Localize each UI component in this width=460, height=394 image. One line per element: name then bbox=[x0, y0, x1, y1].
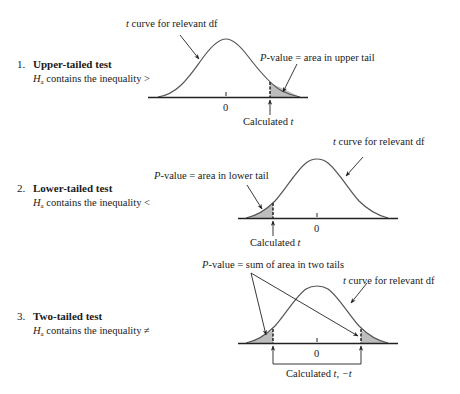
case-3-pvalue-label: P-value = sum of area in two tails bbox=[202, 259, 344, 270]
case-number: 2. bbox=[17, 182, 33, 194]
case-2-heading: 2.Lower-tailed test bbox=[17, 182, 112, 194]
case-2-curve-label: t curve for relevant df bbox=[333, 136, 425, 147]
case-3-hypothesis: Ha contains the inequality ≠ bbox=[33, 325, 150, 338]
case-3-zero-label: 0 bbox=[314, 348, 319, 359]
pvalue-pointer-arrow bbox=[247, 185, 262, 209]
case-2-zero-label: 0 bbox=[314, 223, 319, 234]
case-1-zero-label: 0 bbox=[223, 102, 228, 113]
case-1-calculated-label: Calculated t bbox=[243, 116, 293, 127]
curve-pointer-arrow bbox=[180, 35, 199, 59]
pvalue-arrow-lower bbox=[251, 273, 266, 335]
case-title: Two-tailed test bbox=[33, 310, 102, 322]
case-2-calculated-label: Calculated t bbox=[250, 237, 300, 248]
case-3-heading: 3.Two-tailed test bbox=[17, 310, 102, 322]
curve-pointer-arrow bbox=[351, 283, 367, 303]
pvalue-pointer-arrow bbox=[283, 64, 297, 92]
curve-pointer-arrow bbox=[346, 157, 363, 176]
case-number: 3. bbox=[17, 310, 33, 322]
case-1-pvalue-label: P-value = area in upper tail bbox=[260, 52, 375, 63]
case-number: 1. bbox=[17, 58, 33, 70]
case-1-heading: 1.Upper-tailed test bbox=[17, 58, 112, 70]
case-2-pvalue-label: P-value = area in lower tail bbox=[154, 170, 269, 181]
case-title: Lower-tailed test bbox=[33, 182, 112, 194]
case-1-curve-label: t curve for relevant df bbox=[126, 18, 218, 29]
case-1-hypothesis: Ha contains the inequality > bbox=[33, 73, 150, 86]
case-3-curve-label: t curve for relevant df bbox=[343, 275, 435, 286]
case-title: Upper-tailed test bbox=[33, 58, 112, 70]
case-2-hypothesis: Ha contains the inequality < bbox=[33, 197, 150, 210]
case-3-calculated-label: Calculated t, −t bbox=[286, 368, 352, 379]
